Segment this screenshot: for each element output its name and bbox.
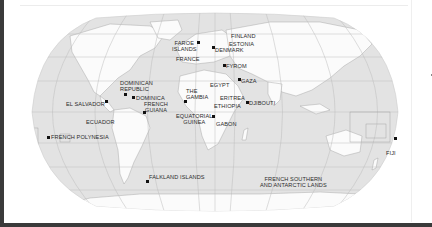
label-dominican-republic: DOMINICANREPUBLIC xyxy=(120,80,153,92)
label-french-guiana: FRENCHGUIANA xyxy=(144,101,168,113)
marker-el-salvador[interactable] xyxy=(105,100,108,103)
label-faroe-islands: FAROEISLANDS xyxy=(172,40,197,52)
label-djibouti: DJIBOUTI xyxy=(249,100,275,106)
label-gabon: GABON xyxy=(216,121,237,127)
label-the-gambia: THEGAMBIA xyxy=(186,88,208,100)
left-border xyxy=(0,0,4,227)
label-equatorial-guinea: EQUATORIALGUINEA xyxy=(176,113,213,125)
bottom-border xyxy=(0,223,432,227)
label-falkland-islands: FALKLAND ISLANDS xyxy=(149,174,205,180)
label-finland: FINLAND xyxy=(231,33,256,39)
label-french-southern-antarctic-lands: FRENCH SOUTHERNAND ANTARCTIC LANDS xyxy=(260,176,327,188)
label-fyrom: FYROM xyxy=(226,63,247,69)
marker-faroe-islands[interactable] xyxy=(197,41,200,44)
marker-dominican-republic[interactable] xyxy=(124,93,127,96)
label-ecuador: ECUADOR xyxy=(86,119,115,125)
marker-the-gambia[interactable] xyxy=(184,100,187,103)
label-france: FRANCE xyxy=(176,56,200,62)
label-french-polynesia: FRENCH POLYNESIA xyxy=(51,134,109,140)
map-frame: FAROEISLANDS FINLAND ESTONIA DENMARK FRA… xyxy=(0,0,432,227)
marker-dominica[interactable] xyxy=(132,96,135,99)
label-eritrea: ERITREA xyxy=(220,95,245,101)
label-gaza: GAZA xyxy=(241,78,257,84)
label-el-salvador: EL SALVADOR xyxy=(66,101,105,107)
marker-french-polynesia[interactable] xyxy=(47,136,50,139)
world-map xyxy=(0,0,432,227)
label-egypt: EGYPT xyxy=(210,82,229,88)
marker-fiji[interactable] xyxy=(394,137,397,140)
label-denmark: DENMARK xyxy=(215,47,244,53)
label-fiji: FIJI xyxy=(386,150,396,156)
marker-falkland-islands[interactable] xyxy=(146,180,149,183)
label-ethiopia: ETHIOPIA xyxy=(214,103,241,109)
